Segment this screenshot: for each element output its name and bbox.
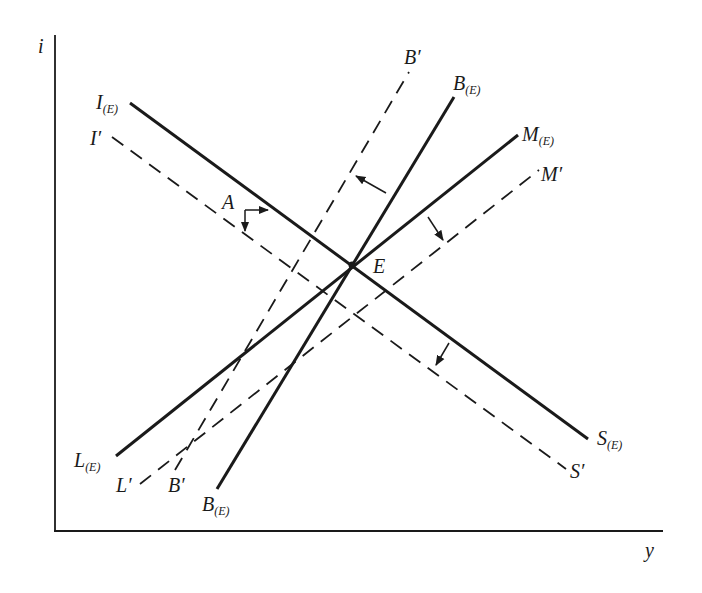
equilibrium-point xyxy=(349,262,356,269)
lm-curve-dashed: M′ L′ xyxy=(115,163,563,496)
y-axis-label: i xyxy=(38,35,44,57)
lm-shift-arrow xyxy=(428,217,443,240)
lm-dashed-end-label: M′ xyxy=(540,163,563,185)
is-curve-dashed: I′ S′ xyxy=(89,127,585,482)
bp-dashed-start-label: B′ xyxy=(168,474,185,496)
is-shift-arrow xyxy=(436,343,449,365)
axes: i y xyxy=(38,35,663,562)
lm-curve-solid: M(E) L(E) xyxy=(73,123,554,474)
lm-solid-end-label: M(E) xyxy=(521,123,554,148)
point-a-label: A xyxy=(220,191,235,213)
is-solid-start-label: I(E) xyxy=(95,91,118,116)
is-solid-end-label: S(E) xyxy=(597,427,622,452)
x-axis-label: y xyxy=(643,539,654,562)
bp-solid-end-label: B(E) xyxy=(453,72,481,97)
bp-solid-start-label: B(E) xyxy=(202,493,230,518)
is-dashed-start-label: I′ xyxy=(89,127,102,149)
bp-curve-solid: B(E) B(E) xyxy=(202,72,481,518)
bp-dashed-end-label: B′ xyxy=(404,46,421,68)
lm-dashed-start-label: L′ xyxy=(115,474,132,496)
diagram-canvas: i y I(E) S(E) I′ S′ M(E) L(E) M′ L′ B(E)… xyxy=(0,0,702,593)
is-dashed-end-label: S′ xyxy=(570,460,585,482)
lm-solid-start-label: L(E) xyxy=(73,449,100,474)
equilibrium-label: E xyxy=(372,255,385,277)
bp-shift-arrow xyxy=(356,176,386,193)
